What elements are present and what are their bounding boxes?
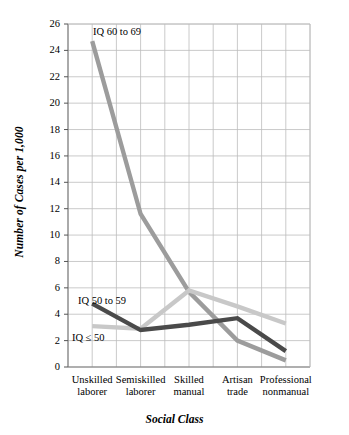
series-label: IQ ≤ 50 [72, 332, 105, 343]
y-tick-marks [64, 24, 68, 367]
y-tick-label: 8 [34, 256, 60, 266]
grid-lines [68, 24, 310, 367]
x-tick-label: Professionalnonmanual [244, 374, 328, 397]
y-tick-label: 18 [34, 125, 60, 135]
x-tick-label-line: Professional [244, 374, 328, 386]
y-tick-label: 16 [34, 151, 60, 161]
y-tick-label: 6 [34, 283, 60, 293]
y-tick-label: 4 [34, 309, 60, 319]
y-tick-label: 10 [34, 230, 60, 240]
y-tick-label: 20 [34, 98, 60, 108]
y-tick-label: 26 [34, 19, 60, 29]
series-label: IQ 50 to 59 [78, 295, 126, 306]
y-tick-label: 0 [34, 362, 60, 372]
y-tick-label: 12 [34, 204, 60, 214]
x-tick-label-line: nonmanual [244, 386, 328, 398]
x-axis-title: Social Class [0, 413, 349, 425]
y-tick-label: 22 [34, 72, 60, 82]
y-axis-title: Number of Cases per 1,000 [13, 107, 25, 277]
y-tick-label: 24 [34, 45, 60, 55]
chart-figure: Number of Cases per 1,000 Social Class 0… [0, 0, 349, 435]
y-tick-label: 14 [34, 177, 60, 187]
y-tick-label: 2 [34, 336, 60, 346]
series-label: IQ 60 to 69 [93, 26, 141, 37]
